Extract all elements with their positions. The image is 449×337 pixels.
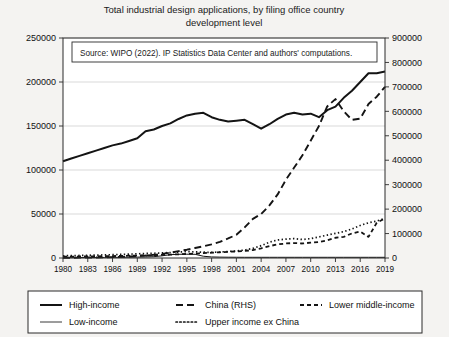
right-axis-tick-label: 100000 [392,229,422,239]
chart-title-line2: development level [186,17,263,28]
x-axis-tick-label: 2007 [277,265,296,274]
x-axis-tick-label: 2013 [326,265,345,274]
right-axis-tick-label: 600000 [392,107,422,117]
x-axis-tick-label: 1980 [54,265,73,274]
source-note: Source: WIPO (2022). IP Statistics Data … [80,49,352,58]
left-axis-tick-label: 250000 [26,33,56,43]
legend-label: China (RHS) [205,300,256,310]
legend-label: Upper income ex China [205,317,299,327]
x-axis-tick-label: 1983 [79,265,98,274]
x-axis-tick-label: 1995 [178,265,197,274]
left-axis-tick-label: 200000 [26,77,56,87]
x-axis-tick-label: 2004 [252,265,271,274]
right-axis-tick-label: 0 [392,253,397,263]
right-axis-tick-label: 900000 [392,33,422,43]
right-axis-tick-label: 800000 [392,58,422,68]
legend-label: Low-income [69,317,118,327]
x-axis-tick-label: 2016 [351,265,370,274]
x-axis-tick-label: 2001 [227,265,246,274]
right-axis-tick-label: 300000 [392,180,422,190]
legend-label: Lower middle-income [329,300,415,310]
left-axis-tick-label: 150000 [26,121,56,131]
chart-title-line1: Total industrial design applications, by… [104,4,345,15]
right-axis-tick-label: 200000 [392,204,422,214]
left-axis-tick-label: 100000 [26,165,56,175]
left-axis-tick-label: 50000 [31,209,56,219]
right-axis-tick-label: 400000 [392,155,422,165]
x-axis-tick-label: 1992 [153,265,172,274]
x-axis-tick-label: 2010 [302,265,321,274]
x-axis-tick-label: 2019 [376,265,395,274]
left-axis-tick-label: 0 [51,253,56,263]
legend-label: High-income [69,300,120,310]
plot-background [63,38,385,258]
x-axis-tick-label: 1986 [103,265,122,274]
right-axis-tick-label: 700000 [392,82,422,92]
x-axis-tick-label: 1998 [203,265,222,274]
chart-figure: Total industrial design applications, by… [0,0,449,337]
x-axis-tick-label: 1989 [128,265,147,274]
right-axis-tick-label: 500000 [392,131,422,141]
